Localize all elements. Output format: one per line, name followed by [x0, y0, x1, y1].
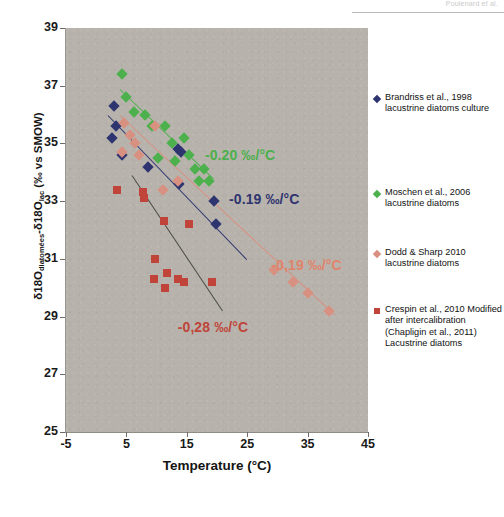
x-tick-label: 35 — [288, 437, 328, 451]
legend-item[interactable]: Brandriss et al., 1998 lacustrine diatom… — [374, 92, 502, 115]
y-tick-mark — [60, 86, 65, 87]
data-point — [117, 68, 128, 79]
x-axis-title: Temperature (°C) — [66, 458, 368, 473]
data-point — [185, 220, 193, 228]
x-tick-label: 15 — [167, 437, 207, 451]
slope-annotation: -0.19 ‰/°C — [229, 191, 299, 207]
y-tick-label: 27 — [8, 366, 58, 380]
data-point — [151, 255, 159, 263]
y-tick-mark — [60, 201, 65, 202]
y-tick-mark — [60, 259, 65, 260]
y-tick-mark — [60, 432, 65, 433]
x-tick-label: 25 — [227, 437, 267, 451]
y-tick-mark — [60, 374, 65, 375]
y-tick-label: 25 — [8, 424, 58, 438]
x-axis-line — [65, 432, 369, 433]
data-point — [150, 275, 158, 283]
data-point — [179, 132, 190, 143]
plot-inner: -0.20 ‰/°C-0.19 ‰/°C-0,19 ‰/°C-0,28 ‰/°C — [66, 28, 368, 432]
y-title-pre: δ18O — [32, 271, 44, 300]
data-point — [161, 284, 169, 292]
slope-annotation: -0,19 ‰/°C — [271, 257, 341, 273]
data-point — [169, 155, 180, 166]
data-point — [160, 217, 168, 225]
data-point — [210, 219, 221, 230]
data-point — [208, 278, 216, 286]
legend-marker — [374, 308, 380, 314]
figure-page: Poulenard et al. -0.20 ‰/°C-0.19 ‰/°C-0,… — [0, 0, 504, 517]
data-point — [157, 184, 168, 195]
x-tick-label: 5 — [106, 437, 146, 451]
chart-figure: -0.20 ‰/°C-0.19 ‰/°C-0,19 ‰/°C-0,28 ‰/°C… — [0, 0, 504, 517]
legend-label: Brandriss et al., 1998 lacustrine diatom… — [374, 92, 502, 115]
legend-label: Moschen et al., 2006 lacustrine diatoms — [374, 187, 502, 210]
legend-item[interactable]: Dodd & Sharp 2010 lacustrine diatoms — [374, 247, 502, 270]
data-point — [113, 186, 121, 194]
slope-annotation: -0,28 ‰/°C — [178, 319, 248, 335]
regression-line — [120, 115, 335, 315]
data-point — [106, 132, 117, 143]
y-tick-mark — [60, 28, 65, 29]
data-point — [163, 269, 171, 277]
y-title-sub1: diatomées — [37, 234, 46, 271]
legend-item[interactable]: Moschen et al., 2006 lacustrine diatoms — [374, 187, 502, 210]
data-point — [142, 161, 153, 172]
data-point — [302, 288, 313, 299]
y-title-sub2: lac — [37, 191, 46, 201]
legend-label: Crespin et al., 2010 Modified after inte… — [374, 304, 502, 350]
legend-label: Dodd & Sharp 2010 lacustrine diatoms — [374, 247, 502, 270]
y-title-post: (‰ vs SMOW) — [32, 112, 44, 191]
data-point — [121, 92, 132, 103]
x-tick-label: 45 — [348, 437, 388, 451]
y-title-mid: -δ18O — [32, 201, 44, 234]
data-point — [180, 278, 188, 286]
y-tick-label: 39 — [8, 20, 58, 34]
data-point — [109, 100, 120, 111]
plot-area: -0.20 ‰/°C-0.19 ‰/°C-0,19 ‰/°C-0,28 ‰/°C — [66, 28, 368, 432]
y-tick-mark — [60, 143, 65, 144]
legend-item[interactable]: Crespin et al., 2010 Modified after inte… — [374, 304, 502, 350]
y-axis-title: δ18Odiatomées-δ18Olac (‰ vs SMOW) — [32, 86, 44, 326]
data-point — [140, 194, 148, 202]
y-tick-mark — [60, 317, 65, 318]
slope-annotation: -0.20 ‰/°C — [205, 147, 275, 163]
y-axis-line — [65, 28, 66, 433]
x-tick-label: -5 — [46, 437, 86, 451]
